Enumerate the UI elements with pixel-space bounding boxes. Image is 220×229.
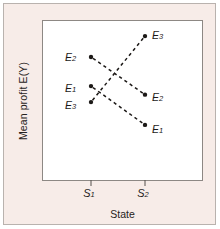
data-point-e2-s2 xyxy=(143,92,147,96)
series-line-e3 xyxy=(93,38,144,100)
x-axis-ticks xyxy=(91,180,145,186)
chart-data-overlay xyxy=(0,0,220,229)
figure-screenshot: Mean profit E(Y) State S1 S2 E2 E1 E3 E3… xyxy=(0,0,220,229)
data-point-e1-s2 xyxy=(143,123,147,127)
series-group xyxy=(89,34,147,127)
data-point-e3-s1 xyxy=(89,100,93,104)
data-point-e3-s2 xyxy=(143,34,147,38)
series-line-e2 xyxy=(93,58,143,93)
series-line-e1 xyxy=(93,88,143,124)
data-point-e2-s1 xyxy=(89,55,93,59)
data-point-e1-s1 xyxy=(89,84,93,88)
